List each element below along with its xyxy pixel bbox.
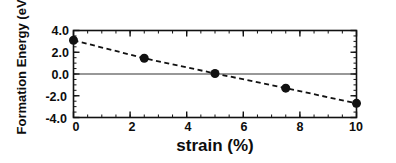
data-point [281,84,290,93]
chart-figure: Formation Energy (eV) strain (%) 4.0 2.0… [0,0,396,163]
data-point [140,54,149,63]
plot-area [0,0,396,163]
data-points [69,36,361,108]
data-point [211,69,220,78]
